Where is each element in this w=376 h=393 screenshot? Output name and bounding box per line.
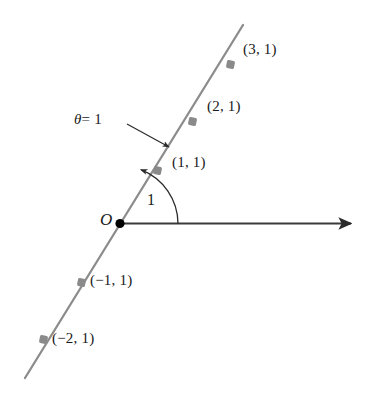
theta-label: θ= 1 bbox=[74, 112, 102, 127]
theta-leader-arrow bbox=[127, 124, 169, 147]
origin-label: O bbox=[100, 211, 112, 228]
angle-label: 1 bbox=[147, 192, 155, 208]
point-label-2-1: (2, 1) bbox=[207, 99, 241, 114]
slanted-line bbox=[25, 25, 243, 378]
point-label-minus1-1: (−1, 1) bbox=[90, 273, 132, 288]
point-marker-minus1-1 bbox=[77, 278, 86, 287]
point-label-3-1: (3, 1) bbox=[243, 42, 277, 57]
theta-value: = 1 bbox=[82, 111, 102, 127]
point-label-1-1: (1, 1) bbox=[172, 155, 206, 170]
point-marker-2-1 bbox=[188, 117, 197, 126]
point-label-minus2-1: (−2, 1) bbox=[52, 331, 94, 346]
point-marker-minus2-1 bbox=[39, 335, 48, 344]
point-marker-3-1 bbox=[226, 60, 235, 69]
origin-point bbox=[115, 219, 124, 228]
point-marker-1-1 bbox=[153, 166, 162, 175]
theta-symbol: θ bbox=[74, 111, 82, 127]
